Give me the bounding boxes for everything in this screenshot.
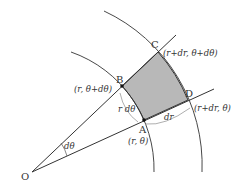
label-D: D (185, 88, 193, 99)
label-C: C (151, 39, 159, 50)
coord-B: (r, θ+dθ) (74, 84, 112, 94)
polar-area-element-diagram: O A (r, θ) B (r, θ+dθ) C (r+dr, θ+dθ) D … (0, 0, 243, 189)
label-dtheta: dθ (64, 141, 75, 151)
ray-theta (32, 89, 214, 172)
label-O: O (21, 171, 29, 182)
label-r-dtheta: r dθ (118, 104, 135, 114)
coord-D: (r+dr, θ) (194, 103, 231, 113)
label-B: B (116, 74, 123, 85)
label-A: A (138, 124, 147, 135)
coord-A: (r, θ) (128, 136, 148, 146)
label-dr: dr (164, 112, 174, 122)
point-A (142, 118, 146, 122)
coord-C: (r+dr, θ+dθ) (163, 48, 218, 58)
